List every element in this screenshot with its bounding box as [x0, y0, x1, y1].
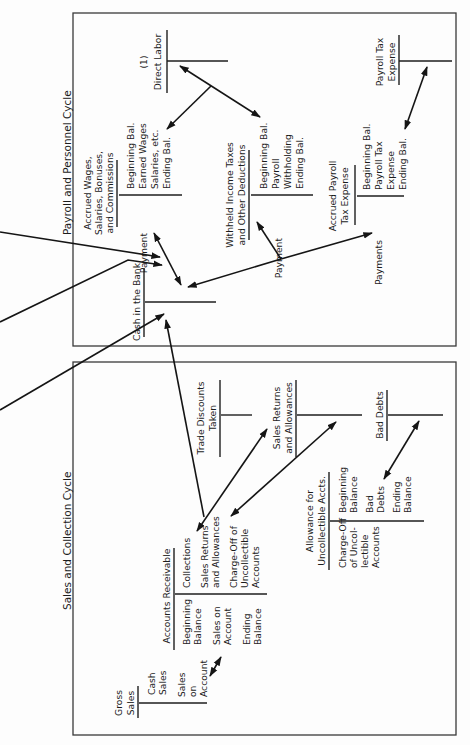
diagram-page: Payroll and Personnel Cycle Sales and Co…: [0, 0, 470, 745]
svg-text:Sales: Sales: [176, 672, 187, 697]
svg-text:Balance: Balance: [402, 476, 413, 513]
t-account-trade-discounts: Trade Discounts Taken: [195, 380, 252, 457]
svg-text:Accounts: Accounts: [370, 526, 381, 568]
svg-text:Sales Returns: Sales Returns: [271, 386, 282, 449]
svg-text:Sales Returns: Sales Returns: [199, 525, 210, 588]
svg-text:Balance: Balance: [348, 476, 359, 513]
arrow-bad-debts-to-allowance: [384, 421, 419, 479]
svg-text:Cash: Cash: [146, 672, 157, 695]
t-account-bad-debts: Bad Debts: [374, 390, 443, 441]
t-account-allowance-uncollectible: Allowance for Uncollectible Accts. Charg…: [304, 467, 424, 570]
t-account-accrued-payroll-tax: Accrued Payroll Tax Expense Payments Beg…: [327, 123, 408, 285]
svg-text:Uncollectible: Uncollectible: [239, 528, 250, 588]
svg-text:(1): (1): [138, 55, 149, 68]
svg-text:Charge-Off: Charge-Off: [337, 517, 348, 568]
svg-text:Uncollectible Accts.: Uncollectible Accts.: [316, 476, 327, 566]
svg-text:Accrued Wages,: Accrued Wages,: [82, 156, 93, 230]
svg-text:Beginning: Beginning: [337, 467, 348, 513]
sales-cycle-title: Sales and Collection Cycle: [61, 472, 73, 610]
svg-text:Allowance for: Allowance for: [304, 490, 315, 552]
svg-text:Ending Bal.: Ending Bal.: [294, 137, 305, 189]
t-account-payroll-tax-expense: Payroll Tax Expense: [374, 35, 452, 86]
svg-text:Bad: Bad: [364, 495, 375, 513]
svg-text:Charge-Off of: Charge-Off of: [228, 525, 239, 588]
t-account-sales-returns: Sales Returns and Allowances: [271, 380, 362, 457]
svg-text:Gross: Gross: [113, 690, 124, 716]
svg-text:Sales: Sales: [125, 691, 136, 716]
svg-text:Payroll Tax: Payroll Tax: [374, 37, 385, 86]
svg-text:Ending: Ending: [241, 613, 252, 645]
svg-text:Sales: Sales: [157, 670, 168, 695]
svg-text:Direct Labor: Direct Labor: [152, 34, 163, 91]
svg-text:Trade Discounts: Trade Discounts: [195, 381, 206, 455]
sales-cycle-frame: [73, 362, 456, 735]
arrow-payroll-tax-expense-accrued-tax: [405, 67, 427, 129]
svg-text:and Allowances: and Allowances: [283, 382, 294, 454]
svg-text:Accrued Payroll: Accrued Payroll: [327, 161, 338, 232]
svg-text:Balance: Balance: [192, 608, 203, 645]
svg-text:Sales on: Sales on: [211, 606, 222, 645]
svg-text:Beginning Bal.: Beginning Bal.: [258, 122, 269, 189]
t-account-withheld-taxes: Withheld Income Taxes and Other Deductio…: [224, 122, 313, 278]
svg-text:Ending Bal.: Ending Bal.: [397, 138, 408, 190]
t-account-flow-diagram: Payroll and Personnel Cycle Sales and Co…: [0, 0, 470, 745]
arrow-accrued-wages-payment-cash: [154, 233, 181, 285]
svg-text:Tax Expense: Tax Expense: [339, 167, 350, 225]
arrow-external-to-cash-1: [0, 232, 160, 257]
t-account-gross-sales: Gross Sales Cash Sales Sales on Account: [113, 660, 209, 718]
svg-text:Ending: Ending: [391, 481, 402, 513]
svg-text:Ending Bal.: Ending Bal.: [161, 137, 172, 189]
svg-text:Account: Account: [198, 660, 209, 697]
arrow-gross-sales-to-ar: [210, 657, 221, 676]
svg-text:Salaries, etc.: Salaries, etc.: [149, 130, 160, 189]
arrow-direct-labor-withheld-taxes: [180, 66, 260, 117]
t-account-accrued-wages: Accrued Wages, Salaries, Bonuses, and Co…: [82, 122, 182, 273]
svg-text:Bad Debts: Bad Debts: [374, 391, 385, 439]
svg-text:of Uncol-: of Uncol-: [348, 527, 359, 568]
svg-text:Beginning Bal.: Beginning Bal.: [125, 122, 136, 189]
svg-text:Payroll Tax: Payroll Tax: [373, 141, 384, 190]
t-account-direct-labor: (1) Direct Labor: [138, 30, 228, 93]
svg-text:Withheld Income Taxes: Withheld Income Taxes: [224, 142, 235, 248]
svg-text:Payments: Payments: [373, 240, 384, 285]
svg-text:Beginning Bal.: Beginning Bal.: [361, 123, 372, 190]
svg-text:lectible: lectible: [359, 534, 370, 568]
svg-text:Accounts Receivable: Accounts Receivable: [161, 548, 172, 643]
svg-text:and Other Deductions: and Other Deductions: [236, 144, 247, 245]
t-account-cash-in-bank: Cash in the Bank: [131, 262, 216, 341]
svg-text:Debts: Debts: [375, 486, 386, 513]
svg-text:Accounts: Accounts: [250, 546, 261, 588]
svg-text:Withholding: Withholding: [282, 134, 293, 189]
svg-text:Collections: Collections: [181, 538, 192, 588]
t-account-accounts-receivable: Accounts Receivable Beginning Balance Sa…: [161, 516, 267, 650]
svg-text:Salaries, Bonuses,: Salaries, Bonuses,: [93, 151, 104, 235]
svg-text:Taken: Taken: [207, 405, 218, 432]
svg-text:Payroll: Payroll: [270, 159, 281, 190]
arrow-direct-labor-to-accrued-wages: [167, 86, 211, 129]
svg-text:Expense: Expense: [386, 42, 397, 81]
svg-text:and Allowances: and Allowances: [210, 516, 221, 588]
svg-text:Beginning: Beginning: [181, 599, 192, 645]
svg-text:Earned Wages: Earned Wages: [137, 123, 148, 189]
svg-text:Account: Account: [222, 608, 233, 645]
svg-text:Expense: Expense: [385, 151, 396, 190]
payroll-cycle-title: Payroll and Personnel Cycle: [61, 90, 73, 235]
svg-text:on: on: [187, 685, 198, 697]
svg-text:and Commissions: and Commissions: [104, 152, 115, 233]
svg-text:Balance: Balance: [252, 608, 263, 645]
